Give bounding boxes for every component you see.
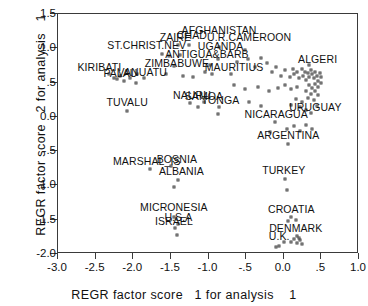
data-point <box>267 89 270 92</box>
data-point <box>210 73 213 76</box>
y-axis-tick-label: -.5 <box>43 144 56 156</box>
x-axis-tick-label: -3.0 <box>47 261 67 273</box>
data-point <box>266 62 269 65</box>
data-point <box>175 233 178 236</box>
data-point <box>284 177 287 180</box>
y-axis-tick-label: 1.5 <box>40 7 56 19</box>
data-point <box>216 113 219 116</box>
data-point <box>257 85 260 88</box>
data-point <box>177 178 180 181</box>
data-point <box>290 240 293 243</box>
data-point <box>296 242 299 245</box>
data-point-label: TURKEY <box>262 165 305 176</box>
x-axis-tick-label: -1.0 <box>198 261 218 273</box>
data-point-label: ALGERI <box>298 54 337 65</box>
data-point <box>296 85 299 88</box>
x-axis-tick <box>358 253 359 259</box>
data-point <box>288 76 291 79</box>
data-point <box>302 74 305 77</box>
data-point-label: ISRAEL <box>155 216 193 227</box>
data-point-label: MAURITIUS <box>205 62 264 73</box>
data-point-label: ALBANIA <box>159 166 204 177</box>
data-point <box>172 185 175 188</box>
data-point <box>306 96 309 99</box>
data-point <box>310 87 313 90</box>
data-point <box>309 69 312 72</box>
data-point-label: ARGENTINA <box>257 129 319 140</box>
data-point-label: NICARAGUA <box>245 109 308 120</box>
data-point <box>284 84 287 87</box>
data-point <box>319 81 322 84</box>
x-axis-tick-label: -.5 <box>238 261 251 273</box>
x-axis-tick <box>170 253 171 259</box>
data-point <box>305 89 308 92</box>
data-point <box>299 239 302 242</box>
data-point-label: TUVALU <box>107 97 148 108</box>
data-point <box>273 121 276 124</box>
data-point <box>284 69 287 72</box>
x-axis-title: REGR factor score 1 for analysis 1 <box>0 288 368 302</box>
data-point <box>293 73 296 76</box>
data-point <box>316 85 319 88</box>
plot-area: ZAIRECHADST.CHRIST.NEVAFGHANISTANU.R.CAM… <box>57 13 358 253</box>
data-point <box>135 81 138 84</box>
data-point <box>306 71 309 74</box>
data-point <box>196 106 199 109</box>
data-point <box>311 73 314 76</box>
data-point <box>233 84 236 87</box>
data-point-label: CROATIA <box>268 204 315 215</box>
data-point <box>305 78 308 81</box>
data-point <box>296 235 299 238</box>
x-axis-tick <box>57 253 58 259</box>
data-point <box>314 70 317 73</box>
data-point <box>187 43 190 46</box>
data-point <box>218 106 221 109</box>
data-point-label: TONGA <box>202 94 240 105</box>
data-point-label: U.K. <box>269 231 290 242</box>
data-point <box>123 80 126 83</box>
y-axis-tick-label: .5 <box>46 76 56 88</box>
data-point <box>276 87 279 90</box>
data-point <box>279 74 282 77</box>
data-point <box>260 56 263 59</box>
data-point <box>293 237 296 240</box>
data-point <box>290 215 293 218</box>
data-point <box>270 70 273 73</box>
y-axis-tick-label: -1.5 <box>36 213 56 225</box>
x-axis-tick-label: -2.0 <box>122 261 142 273</box>
data-point <box>317 93 320 96</box>
data-point <box>309 92 312 95</box>
data-point <box>248 100 251 103</box>
data-point <box>308 76 311 79</box>
x-axis-tick-label: .5 <box>316 261 326 273</box>
y-axis-tick-label: 0.0 <box>40 110 56 122</box>
data-point <box>243 88 246 91</box>
data-point <box>290 88 293 91</box>
y-axis-tick-label: -1.0 <box>36 178 56 190</box>
data-point <box>297 77 300 80</box>
data-point <box>275 66 278 69</box>
data-point <box>291 67 294 70</box>
data-point <box>278 244 281 247</box>
data-point <box>300 243 303 246</box>
x-axis-tick <box>208 253 209 259</box>
x-axis-tick <box>283 253 284 259</box>
y-axis-tick-label: 1.0 <box>40 41 56 53</box>
y-axis-tick-label: -2.0 <box>36 247 56 259</box>
x-axis-tick-label: 1.0 <box>350 261 366 273</box>
data-point <box>174 226 177 229</box>
x-axis-tick-label: 0.0 <box>275 261 291 273</box>
scatter-plot-figure: REGR factor score 2 for analysis 1 REGR … <box>0 0 368 306</box>
data-point <box>285 188 288 191</box>
data-point <box>287 143 290 146</box>
data-point-label: ZIMBABUWE <box>145 58 210 69</box>
data-point <box>312 77 315 80</box>
data-point <box>305 124 308 127</box>
data-point <box>181 74 184 77</box>
data-point-label: BOSNIA <box>157 154 197 165</box>
x-axis-tick-label: -1.5 <box>160 261 180 273</box>
x-axis-tick <box>245 253 246 259</box>
data-point <box>296 70 299 73</box>
data-point <box>148 167 151 170</box>
x-axis-tick-label: -2.5 <box>85 261 105 273</box>
